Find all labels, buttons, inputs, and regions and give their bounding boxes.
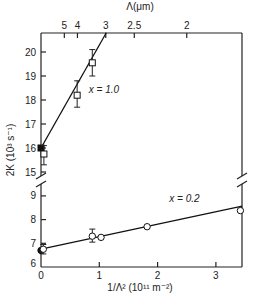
y-tick-label: 18	[25, 95, 37, 106]
x-tick-label: 0	[38, 270, 44, 281]
y-tick-label: 16	[25, 143, 37, 154]
top-tick-label: 4	[75, 20, 81, 31]
circle-marker	[89, 233, 95, 239]
square-marker	[89, 60, 95, 66]
x-tick-label: 1	[97, 270, 103, 281]
x-axis-title: 1/Λ² (10¹¹ m⁻²)	[107, 282, 172, 293]
y-axis-title: 2K (10³ s⁻¹)	[5, 124, 16, 177]
circle-marker	[40, 246, 46, 252]
x-tick-label: 3	[213, 270, 219, 281]
series-2: x = 0.2	[38, 193, 244, 254]
top-axis-title: Λ(μm)	[126, 1, 153, 12]
square-marker	[74, 92, 80, 98]
top-tick-label: 2.5	[127, 20, 141, 31]
square-marker	[41, 151, 47, 157]
data-series: x = 1.0x = 0.2	[38, 33, 244, 254]
x-tick-label: 2	[155, 270, 161, 281]
y-tick-label: 17	[25, 119, 37, 130]
fit-line	[41, 206, 242, 249]
y-tick-label: 15	[25, 167, 37, 178]
top-tick-label: 2	[184, 20, 190, 31]
series-1: x = 1.0	[38, 33, 120, 165]
y-tick-label: 19	[25, 71, 37, 82]
top-tick-label: 5	[62, 20, 68, 31]
y-tick-label: 7	[30, 238, 36, 249]
series-label: x = 1.0	[88, 84, 120, 95]
y-tick-label: 9	[30, 190, 36, 201]
top-tick-label: 3	[103, 20, 109, 31]
circle-marker	[144, 224, 150, 230]
circle-marker	[237, 207, 243, 213]
y-tick-label: 8	[30, 214, 36, 225]
y-tick-label: 20	[25, 47, 37, 58]
plot-frame	[36, 33, 247, 267]
circle-marker	[98, 234, 104, 240]
series-label: x = 0.2	[168, 193, 200, 204]
y-tick-label: 6	[30, 258, 36, 269]
chart: 01235432.521516171819206789 x = 1.0x = 0…	[0, 0, 257, 306]
axis-ticks: 01235432.521516171819206789	[25, 20, 219, 281]
